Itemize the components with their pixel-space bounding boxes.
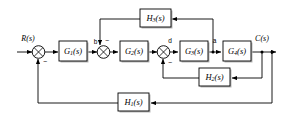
sign-sum3-minus: − <box>168 59 172 66</box>
block-g2: G2(s) <box>120 41 150 63</box>
control-system-block-diagram: G1(s) G2(s) G3(s) G4(s) H3(s) H2(s) H1(s… <box>0 0 283 122</box>
summing-junction-1 <box>32 46 45 59</box>
node-label-d: d <box>168 37 172 44</box>
node-label-a: a <box>213 37 217 44</box>
output-tap-dot-h2 <box>261 51 264 54</box>
h3-label: H3(s) <box>145 13 164 24</box>
g2-label: G2(s) <box>125 46 143 57</box>
sign-sum1-minus: − <box>43 58 47 65</box>
block-diagram-canvas: G1(s) G2(s) G3(s) G4(s) H3(s) H2(s) H1(s… <box>0 0 283 122</box>
h1-label: H1(s) <box>123 97 142 108</box>
summing-junction-3 <box>157 46 170 59</box>
g1-label: G1(s) <box>64 46 82 57</box>
input-signal-label: R(s) <box>20 34 35 43</box>
summing-junction-2 <box>97 46 110 59</box>
h2-label: H2(s) <box>204 72 223 83</box>
g3-label: G3(s) <box>185 46 203 57</box>
node-a-junction-dot <box>212 51 215 54</box>
block-g1: G1(s) <box>59 41 89 63</box>
block-h1: H1(s) <box>118 93 151 113</box>
block-h2: H2(s) <box>199 68 232 88</box>
block-g4: G4(s) <box>223 41 253 63</box>
block-h3: H3(s) <box>140 9 173 29</box>
node-label-b: b <box>94 38 98 45</box>
output-signal-label: C(s) <box>255 34 269 43</box>
output-tap-dot-h1 <box>271 51 274 54</box>
g4-label: G4(s) <box>228 46 246 57</box>
sign-sum2-minus: − <box>105 37 109 44</box>
block-g3: G3(s) <box>180 41 210 63</box>
